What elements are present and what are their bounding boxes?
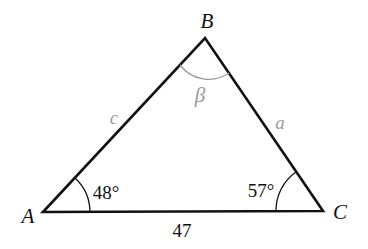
side-label-c: c <box>110 108 118 127</box>
angle-label-c: 57° <box>248 181 275 200</box>
triangle-diagram: B A C c a 47 β 48° 57° <box>0 0 368 249</box>
angle-arc-b <box>180 65 229 79</box>
vertex-label-a: A <box>22 206 35 227</box>
triangle-figure <box>0 0 368 249</box>
side-label-a: a <box>275 113 285 132</box>
angle-label-a: 48° <box>93 183 120 202</box>
angle-label-beta: β <box>195 85 205 106</box>
vertex-label-c: C <box>333 202 347 223</box>
vertex-label-b: B <box>201 11 214 32</box>
angle-arc-a <box>75 178 90 212</box>
angle-arc-c <box>276 172 296 211</box>
side-label-b-length: 47 <box>173 221 192 240</box>
